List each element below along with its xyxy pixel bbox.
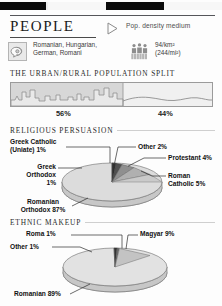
religion-label-romanian-orthodox: Romanian Orthodox 87% [14, 198, 72, 214]
religion-label-other: Other 2% [138, 143, 167, 151]
religion-label-roman-catholic: Roman Catholic 5% [168, 172, 205, 188]
ethnic-heading-row: ETHNIC MAKEUP [10, 218, 215, 227]
rural-percent-label: 44% [158, 109, 173, 118]
languages-line-1: Romanian, Hungarian, [33, 41, 97, 48]
density-line-2: (244/mi²) [155, 49, 181, 56]
page-title: PEOPLE [10, 18, 75, 35]
density-line-1: 94/km² [155, 41, 175, 48]
religion-heading-rule [117, 130, 215, 131]
roman-catholic-line-1: Roman [168, 172, 190, 179]
ethnic-pie-chart: Roma 1% Magyar 9% Other 1% Romanian 89% [10, 228, 215, 302]
speech-bubble-language-icon [8, 42, 27, 61]
greek-catholic-line-2: (Uniate) 1% [10, 146, 46, 153]
crowd-people-icon [130, 42, 149, 61]
roman-catholic-line-2: Catholic 5% [168, 180, 205, 187]
urban-rural-graphic [11, 83, 212, 106]
religion-label-greek-catholic: Greek Catholic (Uniate) 1% [10, 138, 72, 154]
urban-rural-chart [10, 82, 213, 107]
urban-rural-heading: THE URBAN/RURAL POPULATION SPLIT [10, 69, 175, 78]
greek-orthodox-line-3: 1% [46, 179, 56, 186]
facts-row: Romanian, Hungarian, German, Romani [8, 41, 216, 66]
greek-orthodox-line-1: Greek [37, 163, 56, 170]
ethnic-label-romanian: Romanian 89% [14, 290, 61, 298]
bar-segment-1 [0, 2, 46, 10]
density-text: 94/km² (244/mi²) [155, 41, 181, 58]
ethnic-label-other: Other 1% [10, 243, 39, 251]
ethnic-makeup-section: ETHNIC MAKEUP [10, 218, 215, 302]
ethnic-heading: ETHNIC MAKEUP [10, 218, 81, 227]
pop-density-subtitle: Pop. density medium [126, 22, 190, 29]
ethnic-heading-rule [85, 222, 215, 223]
romanian-orthodox-line-2: Orthodox 87% [21, 206, 66, 213]
languages-fact: Romanian, Hungarian, German, Romani [8, 41, 97, 61]
play-triangle-icon [107, 21, 118, 34]
romanian-orthodox-line-1: Romanian [27, 198, 59, 205]
bar-segment-3 [48, 2, 106, 10]
ethnic-label-roma: Roma 1% [26, 230, 56, 238]
urban-rural-heading-row: THE URBAN/RURAL POPULATION SPLIT [10, 69, 215, 78]
bar-segment-4 [106, 2, 164, 10]
title-underline [10, 37, 96, 38]
population-density-fact: 94/km² (244/mi²) [130, 41, 181, 61]
urban-percent-label: 56% [56, 109, 71, 118]
top-decorative-bar [0, 2, 222, 10]
religion-pie-chart: Greek Catholic (Uniate) 1% Other 2% Prot… [10, 136, 215, 214]
urban-rural-section: THE URBAN/RURAL POPULATION SPLIT 56% 44% [10, 69, 215, 121]
languages-line-2: German, Romani [33, 49, 82, 56]
religion-heading-row: RELIGIOUS PERSUASION [10, 126, 215, 135]
bar-segment-5 [164, 2, 222, 10]
urban-rural-percent-labels: 56% 44% [10, 109, 213, 121]
languages-text: Romanian, Hungarian, German, Romani [33, 41, 97, 58]
ethnic-label-magyar: Magyar 9% [140, 230, 174, 238]
religion-label-protestant: Protestant 4% [168, 154, 212, 162]
religion-label-greek-orthodox: Greek Orthodox 1% [10, 163, 56, 187]
greek-orthodox-line-2: Orthodox [26, 171, 56, 178]
greek-catholic-line-1: Greek Catholic [10, 138, 57, 145]
religious-persuasion-section: RELIGIOUS PERSUASION [10, 126, 215, 214]
people-page: PEOPLE Pop. density medium Romanian, Hun… [0, 0, 222, 306]
page-header: PEOPLE Pop. density medium [10, 18, 215, 38]
top-hairline-rule [10, 15, 215, 16]
religion-heading: RELIGIOUS PERSUASION [10, 126, 113, 135]
